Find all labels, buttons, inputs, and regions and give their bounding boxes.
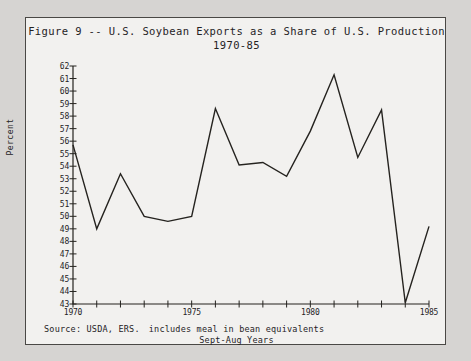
y-axis-tick-label: 48 bbox=[60, 237, 69, 246]
y-axis-tick-label: 52 bbox=[60, 187, 69, 196]
y-axis-tick-label: 59 bbox=[60, 99, 69, 108]
y-axis-tick-label: 58 bbox=[60, 112, 69, 121]
note-line-1: includes meal in bean equivalents bbox=[66, 324, 407, 335]
y-axis-tick-label: 61 bbox=[60, 74, 69, 83]
y-axis-title: Percent bbox=[6, 118, 15, 155]
chart-subtitle: 1970-85 bbox=[26, 38, 447, 52]
y-axis-tick-label: 44 bbox=[60, 287, 69, 296]
y-axis-tick-label: 57 bbox=[60, 124, 69, 133]
data-series-line bbox=[73, 75, 429, 303]
y-axis-tick-label: 51 bbox=[60, 199, 69, 208]
note-line-2: Sept-Aug Years bbox=[66, 335, 407, 346]
x-axis-tick-label: 1980 bbox=[301, 308, 319, 317]
x-axis-tick-label: 1970 bbox=[64, 308, 82, 317]
plot-area bbox=[73, 66, 429, 304]
x-axis-tick-label: 1975 bbox=[182, 308, 200, 317]
x-axis-tick-label: 1985 bbox=[420, 308, 438, 317]
chart-frame: Figure 9 -- U.S. Soybean Exports as a Sh… bbox=[25, 17, 446, 345]
plot-svg bbox=[73, 66, 429, 304]
chart-title-block: Figure 9 -- U.S. Soybean Exports as a Sh… bbox=[26, 24, 447, 52]
axis-ticks bbox=[70, 66, 430, 308]
y-axis-tick-label: 50 bbox=[60, 212, 69, 221]
y-axis-tick-label: 49 bbox=[60, 224, 69, 233]
y-axis-tick-labels: 4344454647484950515253545556575859606162 bbox=[45, 66, 69, 304]
y-axis-tick-label: 56 bbox=[60, 137, 69, 146]
y-axis-tick-label: 53 bbox=[60, 174, 69, 183]
y-axis-tick-label: 62 bbox=[60, 62, 69, 71]
x-axis-tick-labels: 1970197519801985 bbox=[73, 308, 429, 320]
y-axis-tick-label: 46 bbox=[60, 262, 69, 271]
chart-footer: Source: USDA, ERS. includes meal in bean… bbox=[26, 324, 447, 361]
y-axis-tick-label: 60 bbox=[60, 87, 69, 96]
chart-page: Figure 9 -- U.S. Soybean Exports as a Sh… bbox=[0, 0, 471, 361]
chart-title: Figure 9 -- U.S. Soybean Exports as a Sh… bbox=[26, 24, 447, 38]
y-axis-tick-label: 54 bbox=[60, 162, 69, 171]
y-axis-tick-label: 55 bbox=[60, 149, 69, 158]
y-axis-tick-label: 47 bbox=[60, 249, 69, 258]
chart-notes: includes meal in bean equivalents Sept-A… bbox=[66, 324, 407, 346]
y-axis-tick-label: 45 bbox=[60, 274, 69, 283]
